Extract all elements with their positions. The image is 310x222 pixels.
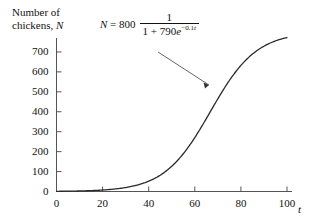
annotation-arrow-line — [158, 52, 209, 85]
y-axis-tick-label: 100 — [15, 166, 49, 177]
x-axis-tick-label: 20 — [86, 198, 120, 209]
x-axis-tick-label: 60 — [178, 198, 212, 209]
chart-container: Number of chickens, N N = 80011 + 790e−0… — [0, 0, 310, 222]
x-axis-title: t — [298, 203, 301, 216]
y-axis-tick-label: 600 — [15, 66, 49, 77]
y-axis-tick-label: 0 — [15, 186, 49, 197]
x-axis-tick-label: 80 — [224, 198, 258, 209]
x-axis-tick-label: 40 — [132, 198, 166, 209]
y-axis-tick-label: 200 — [15, 146, 49, 157]
y-axis-tick-label: 300 — [15, 126, 49, 137]
y-axis-tick-label: 400 — [15, 106, 49, 117]
y-axis-tick-label: 500 — [15, 86, 49, 97]
y-axis-ticks — [57, 52, 62, 172]
y-axis-tick-label: 700 — [15, 46, 49, 57]
x-axis-tick-label: 0 — [40, 198, 74, 209]
